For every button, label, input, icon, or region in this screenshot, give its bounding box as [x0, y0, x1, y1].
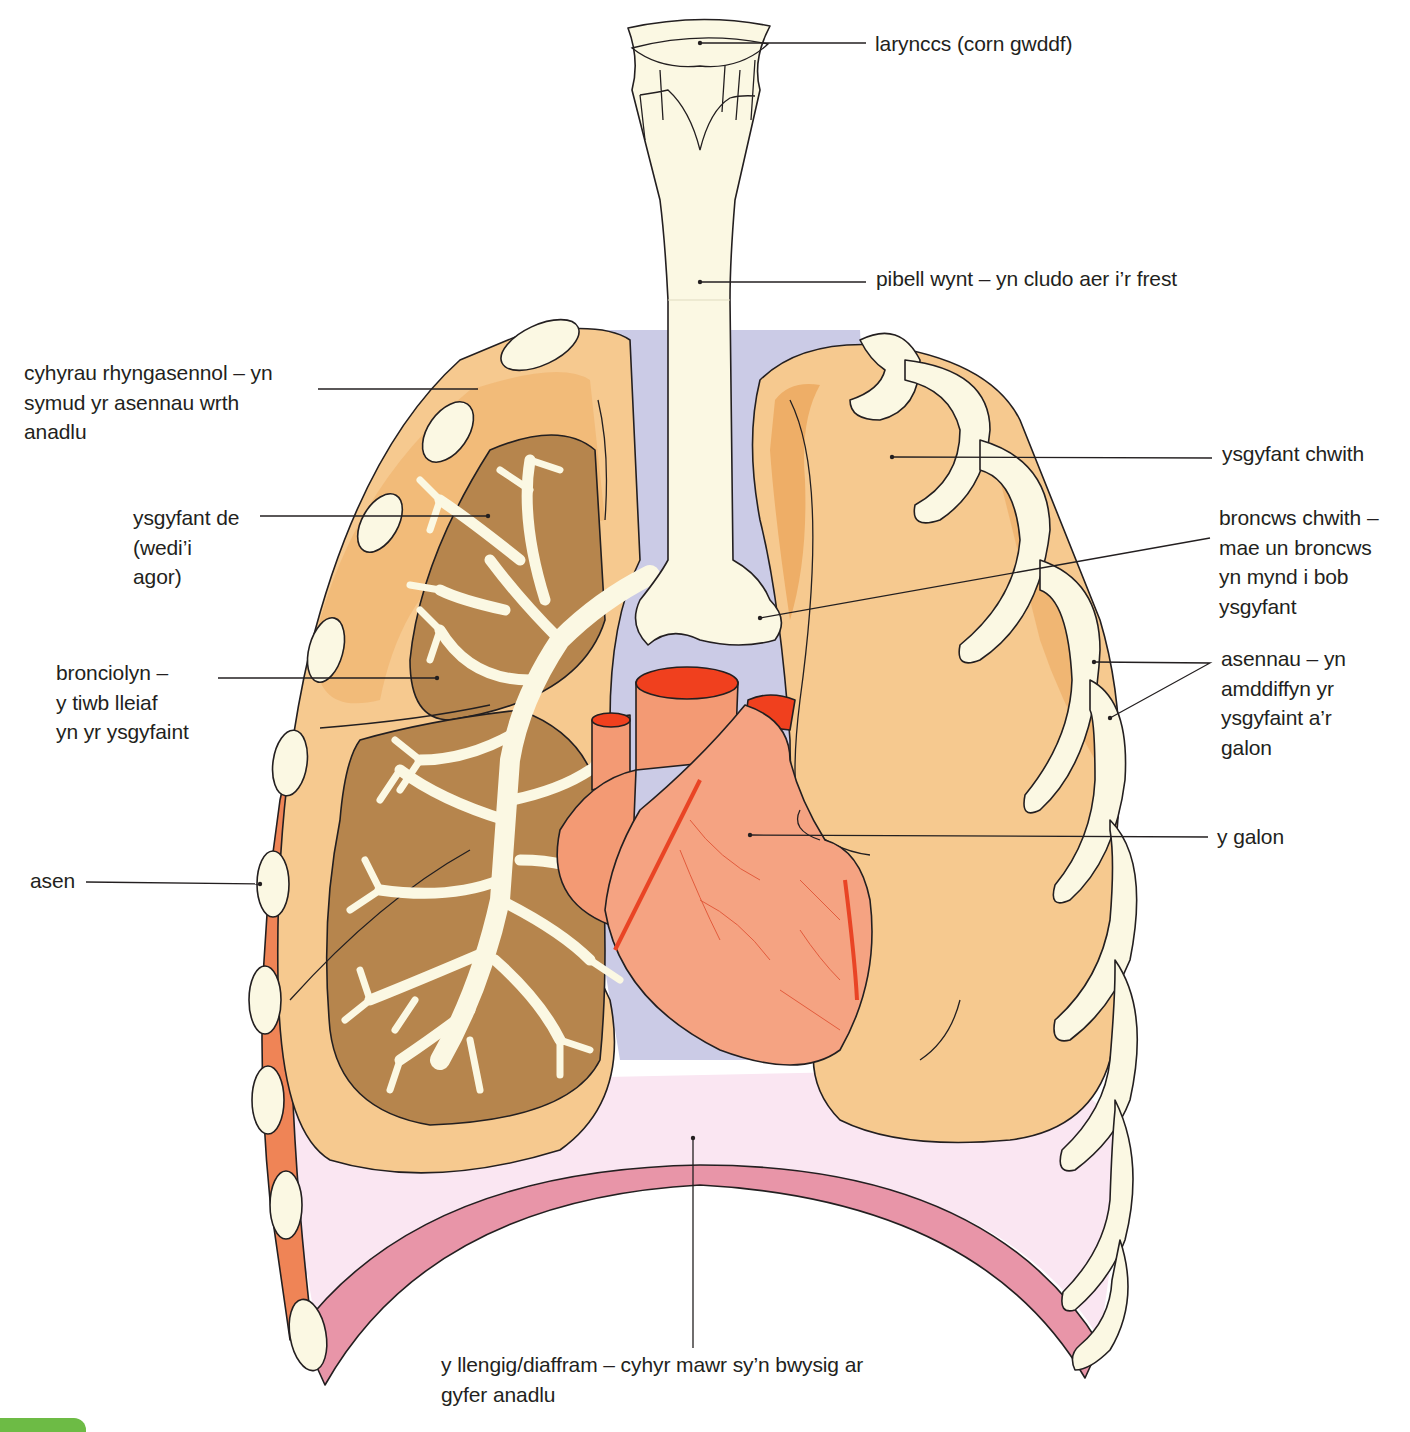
- label-ribs: asennau – yn amddiffyn yr ysgyfaint a’r …: [1221, 644, 1346, 762]
- label-right-lung: ysgyfant de (wedi’i agor): [133, 503, 239, 592]
- label-diaphragm: y llengig/diaffram – cyhyr mawr sy’n bwy…: [441, 1350, 863, 1409]
- label-left-lung: ysgyfant chwith: [1222, 439, 1364, 469]
- label-bronchiole: bronciolyn – y tiwb lleiaf yn yr ysgyfai…: [56, 658, 189, 747]
- corner-badge: [0, 1418, 86, 1432]
- label-rib: asen: [30, 866, 75, 896]
- label-heart: y galon: [1217, 822, 1284, 852]
- label-left-bronchus: broncws chwith – mae un broncws yn mynd …: [1219, 503, 1378, 621]
- label-intercostal-muscles: cyhyrau rhyngasennol – yn symud yr asenn…: [24, 358, 273, 447]
- label-larynx: larynccs (corn gwddf): [875, 29, 1072, 59]
- label-trachea: pibell wynt – yn cludo aer i’r frest: [876, 264, 1177, 294]
